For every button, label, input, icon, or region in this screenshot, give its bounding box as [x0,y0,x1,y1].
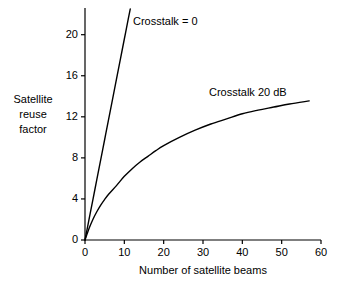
x-tick-label: 40 [228,247,256,258]
annotation-crosstalk-20db: Crosstalk 20 dB [209,86,287,98]
annotation-crosstalk-zero: Crosstalk = 0 [133,15,198,27]
y-tick-label: 16 [52,70,78,81]
y-tick-label: 4 [52,193,78,204]
y-axis-label-line-3: factor [2,122,64,137]
series-crosstalk-20db-line [85,101,309,240]
x-tick-label: 30 [189,247,217,258]
y-tick-label: 20 [52,29,78,40]
axis-lines [85,8,321,240]
series-crosstalk-0-line [85,9,130,240]
y-axis-label-line-2: reuse [2,107,64,122]
x-tick-label: 50 [268,247,296,258]
y-axis-label-line-1: Satellite [2,92,64,107]
x-tick-label: 0 [71,247,99,258]
x-tick-label: 60 [307,247,335,258]
x-axis-ticks [85,240,321,244]
x-tick-label: 20 [150,247,178,258]
y-tick-label: 0 [52,234,78,245]
y-axis-label: Satellite reuse factor [2,92,64,137]
y-tick-label: 8 [52,152,78,163]
chart-figure: 048121620 0102030405060 Satellite reuse … [0,0,349,286]
x-axis-label: Number of satellite beams [85,264,321,276]
x-tick-label: 10 [110,247,138,258]
